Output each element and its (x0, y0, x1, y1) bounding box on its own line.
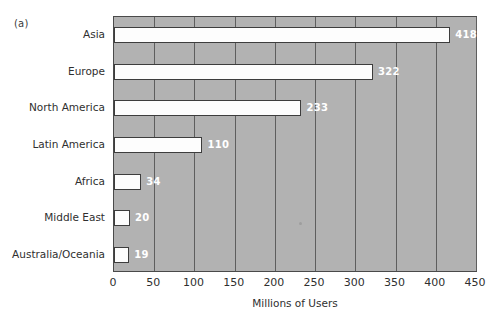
bar-value-label: 233 (306, 100, 328, 116)
bar-australia-oceania (114, 247, 129, 263)
bar-value-label: 322 (378, 64, 400, 80)
gridline-400 (436, 17, 437, 271)
gridline-200 (275, 17, 276, 271)
gridline-350 (396, 17, 397, 271)
category-label-australia-oceania: Australia/Oceania (12, 246, 105, 262)
gridline-450 (476, 17, 477, 271)
bar-latin-america (114, 137, 202, 153)
gridline-300 (355, 17, 356, 271)
x-tick-450: 450 (465, 276, 486, 289)
x-axis-title: Millions of Users (113, 297, 477, 309)
bar-asia (114, 27, 450, 43)
bar-europe (114, 64, 373, 80)
category-label-europe: Europe (68, 63, 105, 79)
bar-value-label: 19 (134, 247, 149, 263)
category-label-north-america: North America (29, 99, 105, 115)
gridline-250 (315, 17, 316, 271)
x-tick-50: 50 (146, 276, 160, 289)
bar-value-label: 20 (135, 210, 150, 226)
category-label-asia: Asia (83, 26, 105, 42)
category-label-latin-america: Latin America (32, 136, 105, 152)
bar-value-label: 34 (146, 174, 161, 190)
category-label-africa: Africa (75, 173, 105, 189)
x-tick-350: 350 (384, 276, 405, 289)
bar-value-label: 110 (207, 137, 229, 153)
bar-middle-east (114, 210, 130, 226)
plot-area: 418322233110342019 (113, 16, 477, 272)
gridline-150 (235, 17, 236, 271)
scan-artifact-speck (299, 222, 302, 225)
x-tick-200: 200 (263, 276, 284, 289)
x-tick-150: 150 (223, 276, 244, 289)
panel-label: (a) (14, 18, 29, 29)
bar-value-label: 418 (455, 27, 477, 43)
x-tick-0: 0 (110, 276, 117, 289)
figure-panel: (a) 418322233110342019 AsiaEuropeNorth A… (0, 0, 497, 324)
category-label-middle-east: Middle East (44, 209, 105, 225)
bar-north-america (114, 100, 301, 116)
x-tick-300: 300 (344, 276, 365, 289)
bar-africa (114, 174, 141, 190)
x-tick-400: 400 (424, 276, 445, 289)
x-tick-100: 100 (183, 276, 204, 289)
x-tick-250: 250 (304, 276, 325, 289)
